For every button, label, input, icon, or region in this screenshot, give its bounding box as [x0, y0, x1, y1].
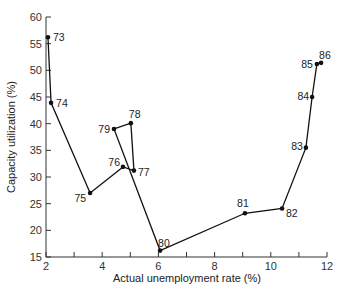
y-tick-label: 35 [30, 144, 42, 156]
point-label: 84 [297, 90, 309, 102]
y-tick-label: 25 [30, 198, 42, 210]
x-tick-label: 6 [155, 260, 161, 272]
point-label: 77 [138, 166, 150, 178]
axes: 2468101215202530354045505560 [30, 11, 333, 272]
chart: 2468101215202530354045505560 73747576777… [0, 0, 348, 292]
point-label: 78 [129, 108, 141, 120]
data-point [158, 248, 163, 253]
y-tick-label: 45 [30, 91, 42, 103]
data-point [49, 101, 54, 106]
data-point [132, 168, 137, 173]
data-point [112, 127, 117, 132]
data-point [121, 165, 126, 170]
point-label: 79 [98, 123, 110, 135]
x-tick-label: 12 [321, 260, 333, 272]
y-tick-label: 20 [30, 224, 42, 236]
point-label: 80 [158, 237, 170, 249]
series-line [48, 37, 321, 250]
point-label: 86 [319, 49, 331, 61]
point-label: 74 [56, 97, 68, 109]
data-point [88, 191, 93, 196]
point-label: 81 [237, 197, 249, 209]
y-tick-label: 50 [30, 64, 42, 76]
data-point [280, 206, 285, 211]
data-point [243, 211, 248, 216]
data-point [46, 35, 51, 40]
point-label: 73 [53, 31, 65, 43]
y-tick-label: 30 [30, 171, 42, 183]
point-label: 82 [286, 207, 298, 219]
x-tick-label: 4 [99, 260, 105, 272]
data-point [310, 95, 315, 100]
y-axis-title: Capacity utilization (%) [5, 81, 17, 193]
point-label: 83 [291, 140, 303, 152]
data-point [319, 61, 324, 66]
point-label: 85 [301, 58, 313, 70]
x-axis-title: Actual unemployment rate (%) [113, 272, 261, 284]
data-point [315, 62, 320, 67]
x-tick-label: 8 [212, 260, 218, 272]
point-label: 75 [74, 192, 86, 204]
data-point [129, 121, 134, 126]
x-tick-label: 2 [43, 260, 49, 272]
y-tick-label: 55 [30, 38, 42, 50]
y-tick-label: 40 [30, 118, 42, 130]
x-tick-label: 10 [265, 260, 277, 272]
y-tick-label: 60 [30, 11, 42, 23]
data-point [304, 145, 309, 150]
data-points: 7374757677787980818283848586 [46, 31, 331, 253]
point-label: 76 [108, 156, 120, 168]
y-tick-label: 15 [30, 251, 42, 263]
